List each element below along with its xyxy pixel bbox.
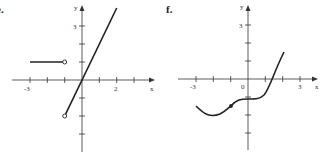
y-axis-label: y	[74, 4, 78, 12]
x-axis-label: x	[150, 85, 154, 93]
y-tick-label-3: 3	[239, 22, 243, 30]
open-endpoint-icon	[63, 114, 67, 118]
x-tick-label-2: 2	[114, 85, 118, 93]
x-tick-label-3: 3	[298, 83, 302, 91]
graph-f: y 3 -3 0 3 x	[160, 0, 323, 160]
open-endpoint-icon	[63, 60, 67, 64]
panel-e: e. y 3 -3 2 x	[0, 0, 160, 160]
x-axis-arrow-icon	[312, 77, 318, 82]
x-tick-label-m3: -3	[190, 83, 196, 91]
x-axis-arrow-icon	[149, 78, 155, 83]
filled-point-icon	[229, 104, 233, 108]
graph-e: y 3 -3 2 x	[0, 0, 160, 160]
y-tick-label-3: 3	[73, 23, 77, 31]
y-axis-arrow-icon	[246, 5, 251, 11]
curve	[196, 52, 284, 116]
x-tick-label-m3: -3	[24, 85, 30, 93]
panel-f: f. y 3 -3 0 3 x	[160, 0, 323, 160]
x-tick-label-0: 0	[241, 83, 245, 91]
x-axis-label: x	[315, 83, 319, 91]
y-axis-arrow-icon	[80, 5, 85, 11]
y-axis-label: y	[240, 3, 244, 11]
